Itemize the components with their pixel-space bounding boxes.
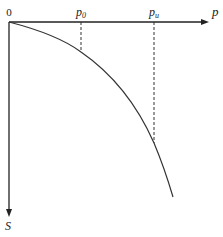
origin-label: 0 [6,6,12,18]
y-axis-arrow-icon [6,209,12,217]
x-axis-label: p [211,4,219,19]
x-axis-arrow-icon [201,19,209,25]
chart-svg: 0 p0 pu p S [0,0,223,237]
p-s-curve [9,22,173,197]
p0-label: p0 [75,5,86,20]
y-axis-label: S [5,219,11,233]
pu-label: pu [148,5,159,20]
p-s-curve-figure: 0 p0 pu p S [0,0,223,237]
